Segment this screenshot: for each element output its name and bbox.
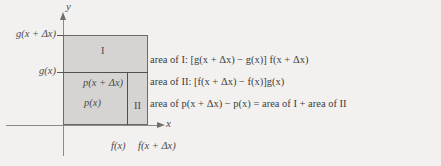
equation-area-of-II: area of II: [f(x + Δx) − f(x)]g(x) (150, 71, 440, 93)
y-axis-arrowhead (60, 12, 66, 20)
equation-list: area of I: [g(x + Δx) − g(x)] f(x + Δx) … (150, 49, 440, 115)
x-tick-f-x-plus-dx: f(x + Δx) (138, 140, 176, 151)
x-axis-line (6, 125, 158, 126)
x-tick-f-x: f(x) (111, 140, 126, 151)
equation-area-of-I: area of I: [g(x + Δx) − g(x)] f(x + Δx) (150, 49, 440, 71)
y-tick-g-x-plus-dx: g(x + Δx) (2, 28, 56, 39)
x-axis-arrowhead (157, 122, 165, 128)
product-rule-area-figure: y x I II p(x + Δx) p(x) g(x + Δx) g(x) f… (0, 0, 441, 166)
equation-area-of-p: area of p(x + Δx) − p(x) = area of I + a… (150, 93, 440, 115)
horizontal-divider-g-of-x (63, 72, 148, 73)
region-label-two: II (134, 100, 141, 111)
label-p-x-plus-delta-x: p(x + Δx) (83, 77, 123, 88)
region-label-one: I (101, 45, 105, 56)
y-axis-label: y (66, 0, 71, 12)
y-tick-g-x: g(x) (2, 65, 56, 76)
x-axis-label: x (166, 117, 171, 129)
y-tick-mark-upper (57, 35, 65, 36)
vertical-divider-f-of-x (127, 72, 128, 125)
label-p-x: p(x) (84, 97, 101, 108)
